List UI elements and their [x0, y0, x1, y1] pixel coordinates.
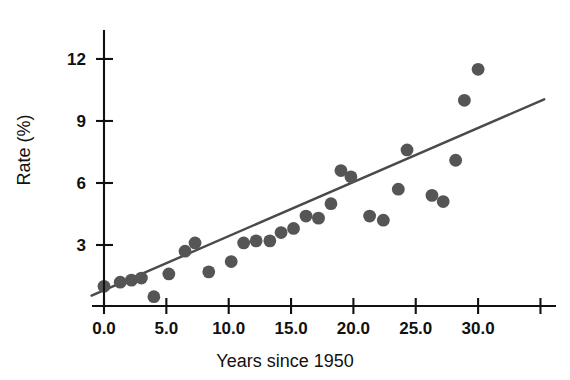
- data-point: [449, 154, 462, 167]
- y-axis-title: Rate (%): [14, 114, 34, 185]
- y-tick-label: 3: [77, 236, 86, 255]
- x-tick-label: 10.0: [212, 319, 245, 338]
- y-axis-ticks: 36912: [67, 50, 113, 255]
- y-tick-label: 12: [67, 50, 86, 69]
- data-point: [202, 265, 215, 278]
- data-point: [377, 214, 390, 227]
- x-tick-label: 5.0: [155, 319, 179, 338]
- data-point: [263, 234, 276, 247]
- data-point: [300, 210, 313, 223]
- data-point: [392, 183, 405, 196]
- y-tick-label: 9: [77, 112, 86, 131]
- data-point: [363, 210, 376, 223]
- plot-canvas: 0.05.010.015.020.025.030.0 36912 Years s…: [0, 0, 570, 380]
- data-point: [275, 226, 288, 239]
- data-point: [345, 170, 358, 183]
- data-point: [472, 63, 485, 76]
- scatter-plot-figure: 0.05.010.015.020.025.030.0 36912 Years s…: [0, 0, 570, 380]
- data-point: [179, 245, 192, 258]
- x-tick-label: 30.0: [462, 319, 495, 338]
- data-point: [189, 237, 202, 250]
- data-point: [426, 189, 439, 202]
- x-tick-label: 0.0: [92, 319, 116, 338]
- regression-line: [92, 99, 545, 295]
- regression-line-segment: [92, 99, 545, 295]
- data-point: [135, 272, 148, 285]
- data-point: [147, 290, 160, 303]
- data-point: [437, 195, 450, 208]
- data-point: [287, 222, 300, 235]
- data-point: [401, 144, 414, 157]
- data-point: [325, 197, 338, 210]
- data-point: [250, 234, 263, 247]
- data-point: [458, 94, 471, 107]
- x-tick-label: 15.0: [275, 319, 308, 338]
- data-point: [162, 268, 175, 281]
- x-axis-title: Years since 1950: [216, 351, 353, 371]
- data-point: [114, 276, 127, 289]
- data-point: [312, 212, 325, 225]
- x-tick-label: 20.0: [337, 319, 370, 338]
- x-axis-ticks: 0.05.010.015.020.025.030.0: [92, 298, 540, 338]
- y-tick-label: 6: [77, 174, 86, 193]
- data-point: [225, 255, 238, 268]
- data-point: [237, 237, 250, 250]
- x-tick-label: 25.0: [399, 319, 432, 338]
